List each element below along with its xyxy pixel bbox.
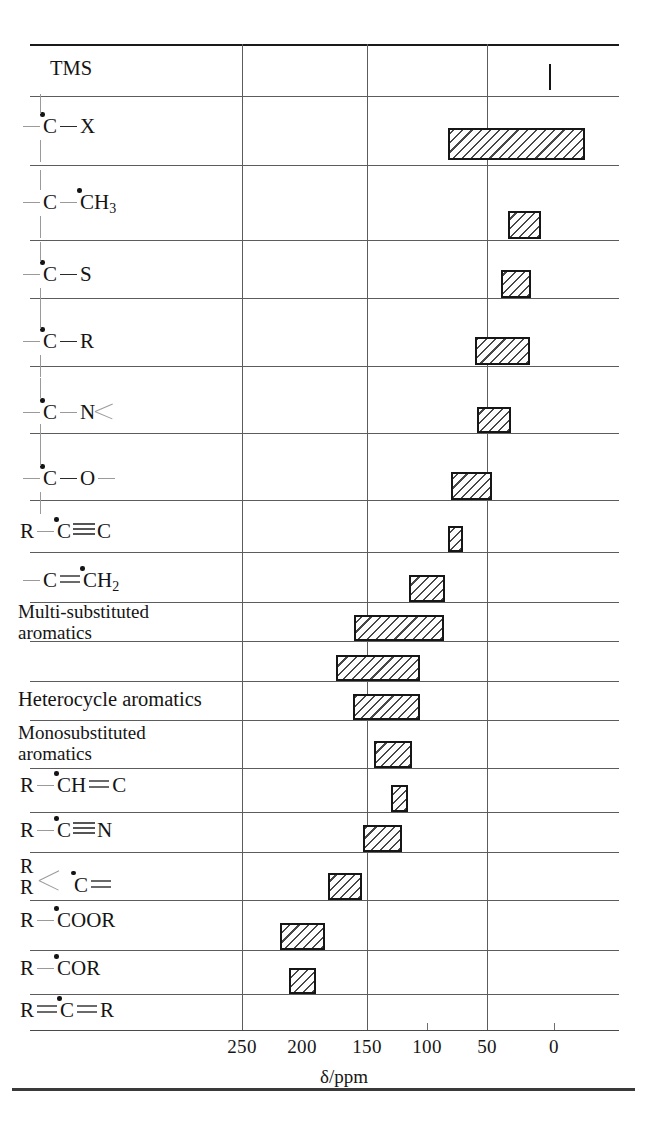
- bond-right: [60, 126, 77, 127]
- row-label-cor: RCOR: [20, 958, 100, 980]
- radical-dot-icon: [54, 906, 59, 911]
- bond-down: [40, 216, 41, 238]
- bond-left: [23, 341, 40, 342]
- triple-bond-icon: [73, 523, 95, 535]
- row-label-monosub: Monosubstituted aromatics: [18, 723, 223, 764]
- page-bottom-rule: [12, 1088, 635, 1091]
- formula-nitrile: RCN: [20, 820, 112, 842]
- range-bar-coor: [328, 873, 362, 900]
- bond-mid: [60, 478, 77, 479]
- radical-dot-icon: [54, 771, 59, 776]
- carbon-atom: C: [43, 264, 57, 286]
- carbon-atom: C: [43, 116, 57, 138]
- radical-dot-icon: [57, 996, 62, 1001]
- nmr-chemical-shift-chart: 250 200 150 100 50 0 δ/ppm TMS CX CCH3 C…: [0, 0, 647, 1129]
- row-label-rrc-double: R R C: [20, 858, 114, 900]
- ch-group: CH: [57, 775, 86, 797]
- range-bar-nitrile: [391, 785, 408, 812]
- subscript-2: 2: [112, 579, 119, 594]
- row-label-c-o: CO: [20, 468, 118, 490]
- r-r-branch: R R: [20, 858, 74, 900]
- formula-c-n: CN: [20, 400, 115, 424]
- range-bar-cor: [280, 923, 325, 950]
- tick-0ppm: [554, 1023, 555, 1030]
- sulfur-atom: S: [80, 264, 92, 286]
- row-separator: [30, 165, 619, 166]
- range-bar-c-ch3: [508, 211, 541, 239]
- row-label-coor: RCOOR: [20, 910, 115, 932]
- row-label-tms: TMS: [50, 58, 92, 79]
- bond-down: [40, 424, 41, 446]
- formula-c-r: CR: [20, 331, 94, 353]
- range-bar-heterocycle: [336, 655, 420, 681]
- bond-up: [40, 446, 41, 466]
- range-bar-rrc-double: [363, 825, 402, 852]
- r-group: R: [20, 775, 34, 797]
- range-bar-multi-aromatic: [354, 615, 444, 641]
- r-group: R: [80, 331, 94, 353]
- range-bar-c-n: [477, 407, 511, 433]
- double-bond-icon: [60, 575, 80, 584]
- tick-label-250: 250: [217, 1036, 267, 1058]
- carbon-atom: C: [112, 775, 126, 797]
- row-separator: [30, 298, 619, 299]
- bond-left: [23, 412, 40, 413]
- gridline-250ppm: [242, 44, 243, 1030]
- range-bar-monosub: [353, 694, 420, 720]
- row-separator: [30, 366, 619, 367]
- formula-coor: RCOOR: [20, 910, 115, 932]
- range-bar-c-r: [475, 337, 530, 365]
- r-group-right: R: [100, 1000, 114, 1022]
- x-axis-title: δ/ppm: [320, 1066, 368, 1088]
- multi-aromatic-line1: Multi-substituted: [18, 602, 223, 623]
- formula-c-x: CX: [20, 116, 95, 138]
- row-separator: [30, 900, 619, 901]
- r-group: R: [20, 958, 34, 980]
- bond-down: [40, 492, 41, 514]
- row-separator: [30, 950, 619, 951]
- carbon-atom: C: [43, 468, 57, 490]
- carbon-atom: C: [43, 192, 57, 214]
- r-group: R: [20, 820, 34, 842]
- carbon-atom: C: [57, 820, 71, 842]
- formula-ch-double-c: RCHC: [20, 775, 126, 797]
- radical-dot-icon: [54, 954, 59, 959]
- row-label-nitrile: RCN: [20, 820, 112, 842]
- bond-up: [40, 309, 41, 329]
- chart-top-border: [30, 44, 619, 46]
- gridline-50ppm: [487, 44, 488, 1030]
- plot-area: 250 200 150 100 50 0 δ/ppm: [30, 44, 619, 1030]
- formula-c-o: CO: [20, 468, 118, 490]
- bond-right: [60, 341, 77, 342]
- bond-left: [23, 126, 40, 127]
- nitrogen-atom: N: [80, 402, 95, 424]
- formula-rrc-double: R R C: [20, 858, 114, 900]
- range-bar-c-s: [501, 270, 531, 298]
- tick-label-0: 0: [539, 1036, 569, 1058]
- row-label-ch-double-c: RCHC: [20, 775, 126, 797]
- row-label-c-r: CR: [20, 331, 94, 353]
- double-bond-icon-right: [77, 1005, 97, 1014]
- row-label-allene: RCR: [20, 1000, 114, 1022]
- open-valence-icon: [95, 400, 115, 422]
- row-separator: [30, 768, 619, 769]
- row-separator: [30, 96, 619, 97]
- r-group: R: [20, 910, 34, 932]
- r-group-bottom: R: [20, 877, 33, 898]
- row-label-heterocycle: Heterocycle aromatics: [18, 689, 202, 710]
- double-bond-icon-left: [37, 1005, 57, 1014]
- bond-left: [37, 830, 54, 831]
- bond-left: [37, 920, 54, 921]
- nitrogen-atom: N: [97, 820, 112, 842]
- tick-label-100: 100: [402, 1036, 452, 1058]
- carbon-atom-2: C: [97, 521, 111, 543]
- bond-left: [37, 968, 54, 969]
- tms-label-text: TMS: [50, 57, 92, 79]
- bond-right: [60, 412, 77, 413]
- carbon-atom: C: [74, 875, 88, 897]
- row-separator: [30, 720, 619, 721]
- r-group-top: R: [20, 856, 33, 877]
- triple-bond-icon: [73, 822, 95, 834]
- formula-vinyl-ch2: CCH2: [20, 570, 119, 594]
- row-separator: [30, 433, 619, 434]
